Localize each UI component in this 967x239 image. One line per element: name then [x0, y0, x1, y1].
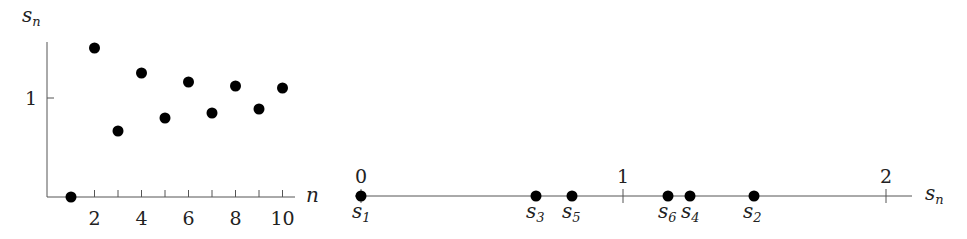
nl-label-s3: s3 [526, 199, 545, 225]
sequence-plot: sn 1 n 2 4 6 8 10 [22, 3, 319, 229]
point-s2 [89, 43, 100, 54]
tick-label-2: 2 [880, 165, 892, 187]
nl-label-s6: s6 [658, 199, 677, 225]
point-s6 [183, 77, 194, 88]
nl-label-s5: s5 [562, 199, 581, 225]
figure: sn 1 n 2 4 6 8 10 0 1 2 [0, 0, 967, 239]
y-tick-label: 1 [25, 87, 37, 109]
tick-label-1: 1 [617, 165, 629, 187]
point-s10 [277, 83, 288, 94]
data-points [66, 43, 289, 203]
number-line-label: sn [925, 181, 944, 207]
number-line: 0 1 2 sn s1 s3 s5 s6 s4 s2 [352, 165, 944, 225]
point-s5 [160, 113, 171, 124]
x-axis-label: n [306, 183, 319, 207]
nl-label-s4: s4 [681, 199, 700, 225]
point-s1 [66, 192, 77, 203]
point-s8 [230, 81, 241, 92]
x-ticks [95, 190, 283, 197]
point-s7 [207, 108, 218, 119]
nl-label-s1: s1 [352, 199, 371, 225]
x-tick-label: 6 [182, 207, 194, 229]
point-s3 [113, 126, 124, 137]
x-tick-label: 10 [270, 207, 294, 229]
x-tick-label: 2 [88, 207, 100, 229]
nl-label-s2: s2 [743, 199, 762, 225]
x-tick-label: 8 [229, 207, 241, 229]
tick-label-0: 0 [355, 165, 367, 187]
point-s4 [136, 68, 147, 79]
point-s9 [254, 104, 265, 115]
y-axis-label: sn [22, 3, 41, 29]
x-tick-label: 4 [135, 207, 147, 229]
